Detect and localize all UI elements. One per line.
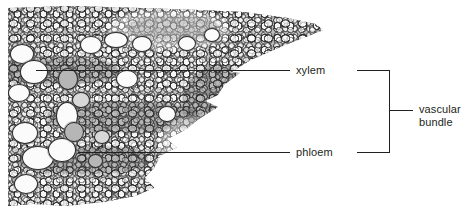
- xylem-vessel: [12, 122, 38, 144]
- xylem-vessel-shaded: [72, 92, 90, 108]
- phloem-leader-line: [78, 152, 290, 153]
- xylem-bracket-connector: [357, 70, 390, 71]
- xylem-vessel: [178, 36, 196, 51]
- xylem-vessel-shaded: [58, 68, 78, 90]
- phloem-bracket-connector: [357, 152, 390, 153]
- figure-root: xylem phloem vascular bundle: [0, 0, 472, 220]
- xylem-vessel: [80, 36, 102, 54]
- xylem-vessel: [132, 36, 152, 52]
- xylem-vessel: [20, 60, 48, 84]
- xylem-vessel-shaded: [94, 130, 110, 144]
- xylem-leader-line: [36, 70, 290, 71]
- xylem-vessel: [14, 174, 38, 194]
- vascular-bundle-bracket: [389, 70, 390, 153]
- xylem-vessel: [204, 28, 220, 42]
- vascular-bundle-label-line2: bundle: [419, 116, 472, 129]
- xylem-vessel: [116, 70, 138, 88]
- xylem-label: xylem: [296, 64, 325, 77]
- micrograph-highlight: [158, 116, 248, 176]
- sclerenchyma-band: [183, 66, 253, 136]
- xylem-vessel: [104, 32, 128, 48]
- xylem-vessel: [8, 84, 30, 102]
- xylem-vessel-shaded: [88, 154, 103, 168]
- xylem-vessel-shaded: [64, 122, 84, 142]
- xylem-vessel: [158, 106, 176, 122]
- vascular-bundle-label-line1: vascular: [419, 103, 472, 116]
- stem-cross-section-micrograph: [8, 6, 326, 208]
- vascular-bundle-bracket-tick: [389, 110, 413, 111]
- vascular-bundle-label: vascular bundle: [419, 103, 472, 129]
- phloem-label: phloem: [296, 146, 333, 159]
